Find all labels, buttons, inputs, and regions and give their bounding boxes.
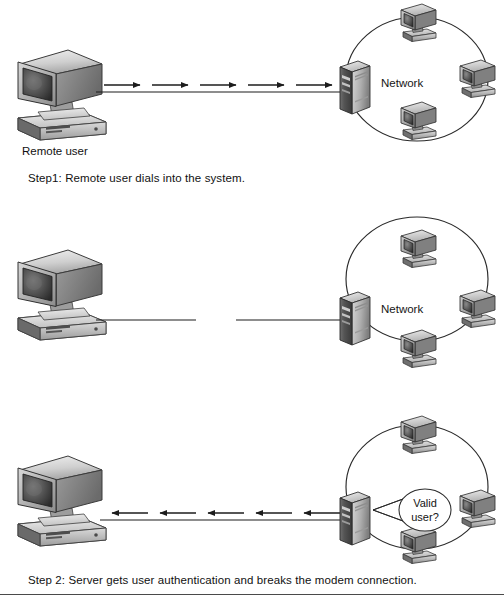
diagram-stage-step-1: Network xyxy=(0,0,504,200)
server-tower-icon xyxy=(340,61,370,114)
client-computer-icon xyxy=(401,330,436,368)
panel-step-2: Network Step 2: Server gets user authent… xyxy=(0,200,504,400)
server-tower-icon xyxy=(340,492,370,545)
bubble-line-1: Valid xyxy=(413,497,437,509)
thought-bubble-icon: Valid user? xyxy=(373,489,451,531)
client-computer-icon xyxy=(401,416,436,454)
desktop-computer-icon xyxy=(18,456,106,546)
client-computer-icon xyxy=(460,490,495,528)
client-computer-icon xyxy=(460,290,495,328)
client-computer-icon xyxy=(401,526,436,564)
panel-step-1: Network Remote user Step1: Remote user d… xyxy=(0,0,504,200)
server-tower-icon xyxy=(340,292,370,345)
network-label: Network xyxy=(381,77,423,89)
footer-divider xyxy=(0,594,504,595)
diagram-stage-step-3: Valid user? xyxy=(0,400,504,604)
desktop-computer-icon xyxy=(18,50,106,140)
panel-step-3: Valid user? Step 3: If the remote user i… xyxy=(0,400,504,604)
client-computer-icon xyxy=(401,230,436,268)
client-computer-icon xyxy=(460,60,495,98)
network-label: Network xyxy=(381,303,423,315)
client-computer-icon xyxy=(401,102,436,140)
client-computer-icon xyxy=(401,4,436,42)
bubble-line-2: user? xyxy=(411,511,439,523)
diagram-page: Network Remote user Step1: Remote user d… xyxy=(0,0,504,604)
remote-user-label: Remote user xyxy=(22,145,88,157)
desktop-computer-icon xyxy=(18,250,106,340)
diagram-stage-step-2: Network xyxy=(0,200,504,400)
caption-step-1: Step1: Remote user dials into the system… xyxy=(28,172,245,184)
